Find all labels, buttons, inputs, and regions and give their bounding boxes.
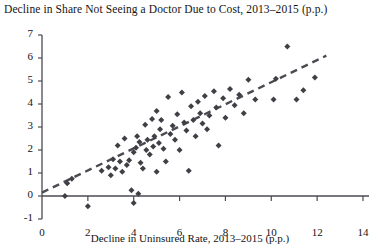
x-tick-label: 14 — [353, 226, 373, 238]
data-point — [195, 99, 201, 105]
y-tick-label: 7 — [15, 27, 33, 39]
data-point — [149, 116, 155, 122]
data-point — [119, 169, 125, 175]
data-point — [165, 94, 171, 100]
data-point — [142, 122, 148, 128]
data-point — [99, 168, 105, 174]
data-point — [188, 103, 194, 109]
data-point — [245, 77, 251, 83]
y-tick-label: 3 — [15, 119, 33, 131]
x-tick-label: 2 — [78, 226, 98, 238]
plot-area — [0, 0, 380, 250]
data-point — [174, 111, 180, 117]
data-point — [204, 126, 210, 132]
data-point — [167, 131, 173, 137]
data-point — [128, 187, 134, 193]
data-point — [183, 127, 189, 133]
data-point — [140, 165, 146, 171]
y-tick-label: 2 — [15, 142, 33, 154]
x-tick-label: 8 — [215, 226, 235, 238]
data-point — [216, 142, 222, 148]
y-tick-label: 4 — [15, 96, 33, 108]
data-point — [122, 136, 128, 142]
data-point — [154, 169, 160, 175]
y-tick-label: 6 — [15, 50, 33, 62]
data-point — [252, 96, 258, 102]
data-point — [294, 96, 300, 102]
data-point — [213, 104, 219, 110]
x-tick-label: 0 — [32, 226, 52, 238]
data-point — [144, 137, 150, 143]
data-point — [284, 44, 290, 50]
data-point — [85, 203, 91, 209]
data-point — [200, 121, 206, 127]
y-tick-label: -1 — [15, 211, 33, 223]
data-point — [108, 172, 114, 178]
data-point — [150, 144, 156, 150]
x-tick-label: 10 — [261, 226, 281, 238]
data-point — [62, 193, 68, 199]
data-point — [241, 110, 247, 116]
data-point — [186, 168, 192, 174]
data-point — [112, 165, 118, 171]
data-point — [134, 133, 140, 139]
data-point — [117, 159, 123, 165]
data-point — [312, 75, 318, 81]
data-point — [197, 110, 203, 116]
y-tick-label: 5 — [15, 73, 33, 85]
x-tick-label: 4 — [124, 226, 144, 238]
data-point — [157, 126, 163, 132]
data-point — [193, 133, 199, 139]
data-point — [227, 86, 233, 92]
data-point — [172, 137, 178, 143]
data-point — [69, 176, 75, 182]
data-point — [181, 119, 187, 125]
data-point — [177, 147, 183, 153]
data-point — [115, 142, 121, 148]
data-point — [179, 90, 185, 96]
data-point — [232, 102, 238, 108]
data-point — [154, 108, 160, 114]
data-point — [110, 156, 116, 162]
x-tick-label: 12 — [307, 226, 327, 238]
x-tick-label: 6 — [170, 226, 190, 238]
data-point — [222, 115, 228, 121]
data-point — [271, 96, 277, 102]
data-point — [211, 88, 217, 94]
data-point — [163, 159, 169, 165]
scatter-chart: Decline in Share Not Seeing a Doctor Due… — [0, 0, 380, 250]
data-point — [147, 152, 153, 158]
y-tick-label: 1 — [15, 165, 33, 177]
data-point — [138, 160, 144, 166]
y-tick-label: 0 — [15, 188, 33, 200]
data-point — [161, 146, 167, 152]
data-point — [202, 93, 208, 99]
data-point — [300, 87, 306, 93]
data-point — [156, 140, 162, 146]
data-point — [220, 95, 226, 101]
data-point — [131, 200, 137, 206]
data-point — [158, 117, 164, 123]
data-point — [105, 164, 111, 170]
data-point — [143, 147, 149, 153]
